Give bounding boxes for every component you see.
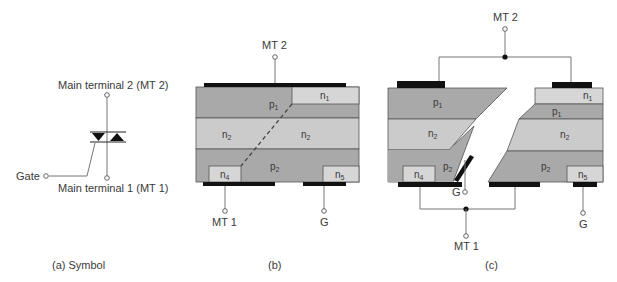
mt1-label-c: MT 1 [454, 240, 479, 252]
mt1-electrode-b [203, 182, 275, 186]
mt1-label: Main terminal 1 (MT 1) [58, 182, 168, 194]
triac-structure-c: MT 2 p1 n2 p2 n4 n1 p1 n2 p2 n5 [388, 11, 603, 271]
n2-right-c [507, 119, 603, 151]
mt2-terminal-c [503, 27, 508, 32]
gate-terminal-right-c [581, 211, 586, 216]
caption-b: (b) [268, 259, 281, 271]
gate-terminal [44, 174, 49, 179]
gate-lead [49, 143, 95, 176]
diode-up-icon [110, 133, 124, 141]
mt2-bus-c [439, 57, 571, 83]
mt1-bus-c [420, 187, 515, 209]
mt2-junction-c [502, 54, 507, 59]
caption-c: (c) [485, 259, 498, 271]
caption-a: (a) Symbol [52, 259, 105, 271]
mt2-terminal [105, 93, 110, 98]
top-electrode-right-c [552, 82, 592, 88]
mt2-label-c: MT 2 [493, 11, 518, 23]
top-electrode-left-c [397, 81, 445, 88]
triac-structure-b: MT 2 p1 n1 n2 n2 p2 n4 n5 MT 1 G (b) [196, 39, 359, 271]
mt1-terminal [105, 176, 110, 181]
triac-diagram: Main terminal 2 (MT 2) Gate Main termina… [0, 0, 617, 282]
triac-symbol: Main terminal 2 (MT 2) Gate Main termina… [16, 79, 168, 271]
mt1-label-b: MT 1 [212, 216, 237, 228]
diode-down-icon [92, 133, 105, 141]
gate-label: Gate [16, 170, 40, 182]
gate-electrode-right-c [573, 182, 597, 187]
gate-electrode-b [303, 182, 346, 186]
mt1-terminal-b [223, 209, 228, 214]
mt1-electrode-right-c [489, 182, 540, 187]
top-electrode-b [204, 83, 346, 87]
mt2-terminal-b [273, 55, 278, 60]
mt1-terminal-c [464, 234, 469, 239]
mt2-label-b: MT 2 [262, 39, 287, 51]
p1-left-c [388, 88, 507, 119]
gate-label-right-c: G [579, 218, 588, 230]
gate-terminal-left-c [463, 190, 468, 195]
gate-terminal-b [322, 209, 327, 214]
gate-label-left-c: G [452, 186, 461, 198]
mt2-label: Main terminal 2 (MT 2) [58, 79, 168, 91]
n1-right-c [535, 88, 603, 104]
gate-label-b: G [320, 216, 329, 228]
